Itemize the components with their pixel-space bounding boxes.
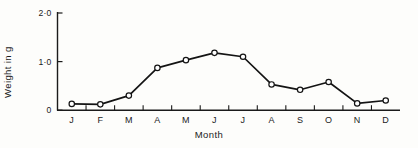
- x-tick-label-september: S: [297, 115, 303, 125]
- data-point-december: [383, 98, 388, 103]
- x-tick-label-february: F: [97, 115, 103, 125]
- data-point-may: [183, 57, 188, 62]
- chart-figure: 01·02·0 JFMAMJJASOND Weight in g Month: [0, 0, 418, 148]
- data-point-october: [326, 79, 331, 84]
- x-axis-title: Month: [0, 129, 418, 140]
- y-tick-label: 0: [47, 105, 52, 115]
- data-point-march: [126, 93, 131, 98]
- x-tick-label-march: M: [125, 115, 133, 125]
- x-tick-label-august: A: [268, 115, 274, 125]
- y-axis-title: Weight in g: [2, 84, 13, 98]
- data-point-february: [98, 102, 103, 107]
- data-point-april: [155, 65, 160, 70]
- data-point-august: [269, 82, 274, 87]
- y-tick-label: 2·0: [38, 8, 51, 18]
- x-tick-label-december: D: [382, 115, 389, 125]
- x-axis-ticks: [86, 105, 371, 110]
- x-tick-label-january: J: [69, 115, 74, 125]
- y-axis-tick-labels: 01·02·0: [38, 8, 51, 115]
- line-chart-plot: 01·02·0 JFMAMJJASOND: [0, 0, 418, 148]
- data-point-november: [354, 101, 359, 106]
- data-series-line: [72, 53, 386, 105]
- x-tick-label-june: J: [212, 115, 217, 125]
- data-point-september: [297, 87, 302, 92]
- x-axis-tick-labels: JFMAMJJASOND: [69, 115, 389, 125]
- data-point-june: [212, 50, 217, 55]
- y-axis-ticks: [58, 13, 63, 110]
- data-point-january: [69, 101, 74, 106]
- data-point-july: [240, 54, 245, 59]
- y-tick-label: 1·0: [38, 57, 51, 67]
- x-tick-label-april: A: [154, 115, 160, 125]
- x-tick-label-october: O: [325, 115, 332, 125]
- x-tick-label-may: M: [182, 115, 190, 125]
- x-tick-label-november: N: [354, 115, 361, 125]
- x-tick-label-july: J: [241, 115, 246, 125]
- chart-axes: [57, 12, 400, 111]
